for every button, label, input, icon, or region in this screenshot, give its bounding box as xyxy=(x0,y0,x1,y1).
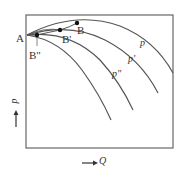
curve-p-prime xyxy=(27,30,158,93)
label-point-b-prime: B' xyxy=(62,34,71,45)
y-axis-label-group: p xyxy=(9,96,23,130)
label-curve-p-double-prime: p" xyxy=(112,69,121,79)
curve-fourth xyxy=(27,35,111,120)
diagram-canvas xyxy=(0,0,182,172)
x-axis-label-group: Q xyxy=(82,157,122,169)
label-curve-p-prime: p' xyxy=(128,54,135,64)
label-curve-p: p xyxy=(140,38,145,48)
label-point-a: A xyxy=(16,33,24,44)
y-axis-label: p xyxy=(9,99,19,104)
label-point-b-double-prime: B" xyxy=(29,50,41,61)
diagram: A B B' B" p p' p" p Q xyxy=(0,0,182,172)
curve-p xyxy=(27,20,173,73)
point-b-double-prime xyxy=(35,33,39,37)
point-b-prime xyxy=(58,28,62,32)
x-axis-label: Q xyxy=(99,156,106,166)
label-point-b: B xyxy=(77,25,84,36)
